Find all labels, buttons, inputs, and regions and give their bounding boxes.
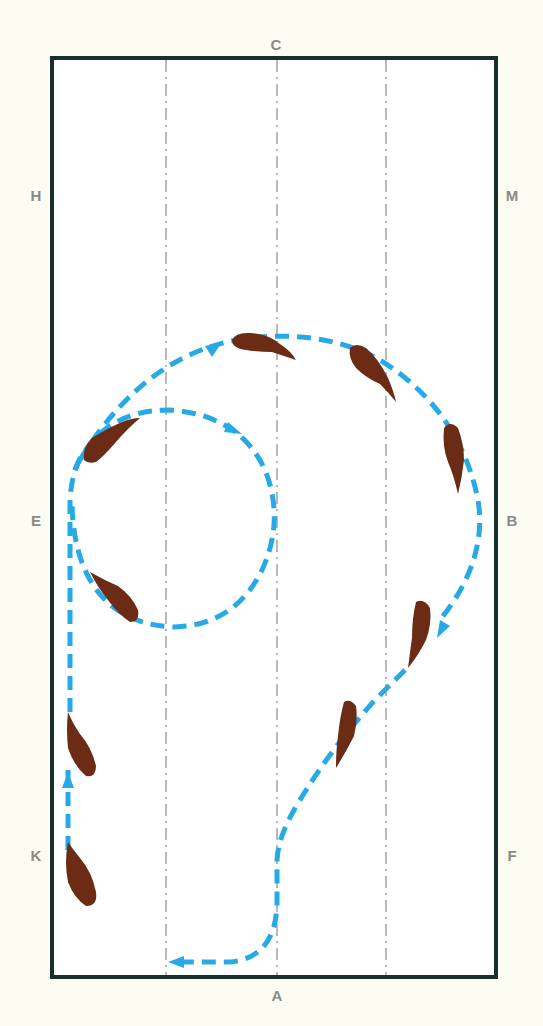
marker-a: A	[272, 987, 283, 1004]
marker-b: B	[507, 512, 518, 529]
marker-k: K	[31, 847, 42, 864]
marker-c: C	[271, 36, 282, 53]
marker-f: F	[507, 847, 516, 864]
marker-e: E	[31, 512, 41, 529]
marker-m: M	[506, 187, 519, 204]
marker-h: H	[31, 187, 42, 204]
arena-diagram	[0, 0, 543, 1026]
